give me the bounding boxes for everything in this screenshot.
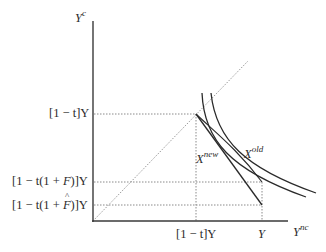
y-tick-top-text: [1 − t]Y xyxy=(49,106,89,120)
x-tick-kink: [1 − t]Y xyxy=(176,228,216,241)
x-axis-label-sup: nc xyxy=(300,222,309,232)
indifference-diagram xyxy=(0,0,326,252)
y-tick-low-var-hat: F xyxy=(63,199,71,212)
x-tick-endowment-text: Y xyxy=(258,227,265,241)
x-axis-label-base: Y xyxy=(293,225,300,239)
y-axis-label: Yc xyxy=(75,12,86,25)
curve-label-x-old-sup: old xyxy=(252,144,264,154)
y-axis-label-sup: c xyxy=(82,8,86,18)
x-axis-label: Ync xyxy=(293,226,308,239)
curve-label-x-old-base: X xyxy=(244,147,252,161)
y-tick-low-prefix: [1 − t(1 + xyxy=(12,198,63,212)
y-tick-mid-suffix: )]Y xyxy=(71,174,88,188)
curve-label-x-old: Xold xyxy=(244,148,263,161)
y-tick-top: [1 − t]Y xyxy=(49,107,89,120)
y-tick-mid-var: F xyxy=(63,174,71,188)
curve-label-x-new-sup: new xyxy=(204,149,219,159)
y-tick-low: [1 − t(1 + F)]Y xyxy=(12,199,88,212)
curve-label-x-new: Xnew xyxy=(196,153,218,166)
y-axis-label-base: Y xyxy=(75,11,82,25)
x-tick-kink-text: [1 − t]Y xyxy=(176,227,216,241)
y-tick-mid: [1 − t(1 + F)]Y xyxy=(12,175,88,188)
x-tick-endowment: Y xyxy=(258,228,265,241)
curve-label-x-new-base: X xyxy=(196,152,204,166)
y-tick-mid-prefix: [1 − t(1 + xyxy=(12,174,63,188)
y-tick-low-suffix: )]Y xyxy=(71,198,88,212)
